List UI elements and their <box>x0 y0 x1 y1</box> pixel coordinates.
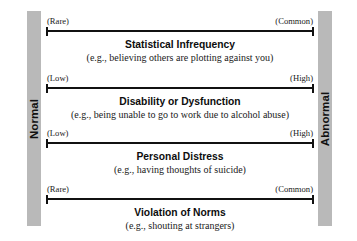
criterion-example: (e.g., believing others are plotting aga… <box>46 51 314 64</box>
endpoint-label-high: (Common) <box>275 16 313 26</box>
criterion-example: (e.g., having thoughts of suicide) <box>46 163 314 176</box>
criterion-text: Personal Distress (e.g., having thoughts… <box>46 150 314 176</box>
axis-line <box>46 198 314 200</box>
criterion-row-disability-or-dysfunction: (Low) (High) Disability or Dysfunction (… <box>46 69 314 121</box>
criterion-example: (e.g., shouting at strangers) <box>46 219 314 232</box>
endpoint-label-low: (Low) <box>47 128 68 138</box>
criterion-title: Personal Distress <box>46 150 314 163</box>
continuum-axis <box>46 139 314 148</box>
axis-tick-end <box>312 139 314 148</box>
criterion-text: Statistical Infrequency (e.g., believing… <box>46 38 314 64</box>
axis-tick-end <box>312 27 314 36</box>
axis-line <box>46 87 314 89</box>
continuum-endpoints: (Low) (High) <box>46 69 314 83</box>
axis-line <box>46 142 314 144</box>
criterion-example: (e.g., being unable to go to work due to… <box>46 108 314 121</box>
endpoint-label-high: (High) <box>290 128 313 138</box>
criterion-text: Disability or Dysfunction (e.g., being u… <box>46 95 314 121</box>
criterion-text: Violation of Norms (e.g., shouting at st… <box>46 206 314 232</box>
anchor-bar-abnormal: Abnormal <box>318 11 332 226</box>
continuum-axis <box>46 84 314 93</box>
endpoint-label-high: (High) <box>290 73 313 83</box>
anchor-label-normal: Normal <box>28 98 40 138</box>
criterion-title: Disability or Dysfunction <box>46 95 314 108</box>
continuum-endpoints: (Rare) (Common) <box>46 12 314 26</box>
abnormality-criteria-figure: Normal Abnormal (Rare) (Common) Statisti… <box>0 0 357 241</box>
endpoint-label-low: (Rare) <box>47 16 69 26</box>
continuum-axis <box>46 27 314 36</box>
anchor-bar-normal: Normal <box>27 11 41 226</box>
criterion-title: Statistical Infrequency <box>46 38 314 51</box>
criterion-title: Violation of Norms <box>46 206 314 219</box>
axis-tick-end <box>312 195 314 204</box>
anchor-label-abnormal: Abnormal <box>319 91 331 145</box>
axis-line <box>46 30 314 32</box>
endpoint-label-high: (Common) <box>275 184 313 194</box>
continuum-endpoints: (Rare) (Common) <box>46 180 314 194</box>
criterion-row-statistical-infrequency: (Rare) (Common) Statistical Infrequency … <box>46 12 314 64</box>
endpoint-label-low: (Rare) <box>47 184 69 194</box>
continuum-axis <box>46 195 314 204</box>
axis-tick-end <box>312 84 314 93</box>
criterion-row-violation-of-norms: (Rare) (Common) Violation of Norms (e.g.… <box>46 180 314 232</box>
endpoint-label-low: (Low) <box>47 73 68 83</box>
continuum-endpoints: (Low) (High) <box>46 124 314 138</box>
criterion-row-personal-distress: (Low) (High) Personal Distress (e.g., ha… <box>46 124 314 176</box>
